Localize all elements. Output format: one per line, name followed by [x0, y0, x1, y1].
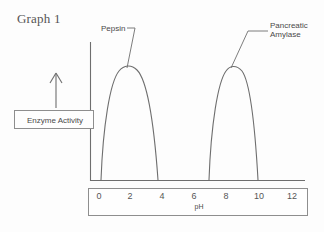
x-axis-label-box: 0 2 4 6 8 10 12 pH: [88, 188, 308, 216]
x-tick-6: 6: [186, 191, 202, 201]
x-tick-8: 8: [218, 191, 234, 201]
y-axis-label: Enzyme Activity: [15, 111, 95, 130]
amylase-leader-line: [231, 31, 268, 68]
x-tick-12: 12: [284, 191, 300, 201]
curve-pancreatic-amylase: [209, 67, 258, 181]
x-axis-label: pH: [89, 203, 309, 210]
x-tick-0: 0: [91, 191, 107, 201]
page-title: Graph 1: [17, 11, 61, 27]
enzyme-activity-arrow-icon: [50, 73, 62, 108]
x-tick-10: 10: [251, 191, 267, 201]
x-tick-2: 2: [122, 191, 138, 201]
graph-figure: Graph 1 Pepsin Pancreatic Amylase Enzyme…: [0, 0, 324, 232]
annotation-pancreatic-amylase: Pancreatic Amylase: [270, 21, 318, 39]
curve-pepsin: [101, 66, 158, 180]
y-axis-label-box: Enzyme Activity: [14, 110, 94, 129]
annotation-pepsin: Pepsin: [101, 24, 125, 33]
pepsin-leader-line: [127, 28, 135, 68]
x-tick-4: 4: [154, 191, 170, 201]
annotation-amylase-line2: Amylase: [270, 30, 301, 39]
annotation-amylase-line1: Pancreatic: [270, 21, 308, 30]
